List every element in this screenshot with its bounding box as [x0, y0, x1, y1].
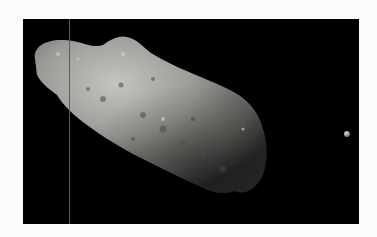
- space-photo: [23, 19, 359, 224]
- asteroid: [23, 19, 359, 224]
- moon: [344, 131, 350, 137]
- vertical-artifact-line: [69, 19, 70, 224]
